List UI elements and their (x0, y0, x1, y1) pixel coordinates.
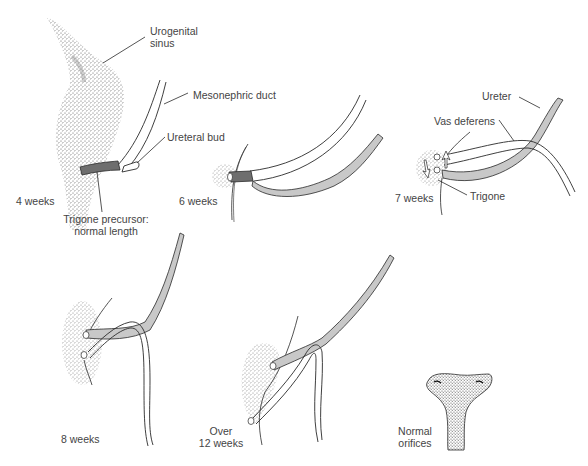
stage-over-12-weeks-drawing (242, 255, 394, 445)
stage-6-weeks-drawing (212, 95, 383, 222)
normal-orifices-drawing (427, 374, 492, 450)
label-8-weeks: 8 weeks (61, 433, 100, 445)
label-trigone-precursor-1: Trigone precursor: (56, 213, 156, 225)
stage-4-weeks-drawing (47, 18, 188, 230)
urogenital-sinus-shape (47, 18, 124, 230)
ureteral-bud (122, 162, 139, 172)
label-normal-orifices-1: Normal (396, 425, 434, 437)
stage-8-weeks-drawing (62, 233, 184, 446)
label-vas-deferens: Vas deferens (434, 115, 495, 127)
label-trigone-precursor-2: normal length (56, 225, 156, 237)
label-trigone: Trigone (470, 190, 505, 202)
trigone-shape (427, 374, 492, 450)
label-6-weeks: 6 weeks (179, 195, 218, 207)
label-urogenital-sinus-2: sinus (150, 37, 198, 49)
label-over-12-weeks-2: 12 weeks (197, 437, 245, 449)
label-ureteral-bud: Ureteral bud (167, 131, 225, 143)
label-7-weeks: 7 weeks (395, 192, 434, 204)
label-ureter: Ureter (482, 90, 511, 102)
label-urogenital-sinus-1: Urogenital (150, 25, 198, 37)
label-4-weeks: 4 weeks (16, 195, 55, 207)
label-normal-orifices-2: orifices (396, 437, 434, 449)
label-mesonephric-duct: Mesonephric duct (193, 89, 276, 101)
label-over-12-weeks-1: Over (197, 425, 245, 437)
